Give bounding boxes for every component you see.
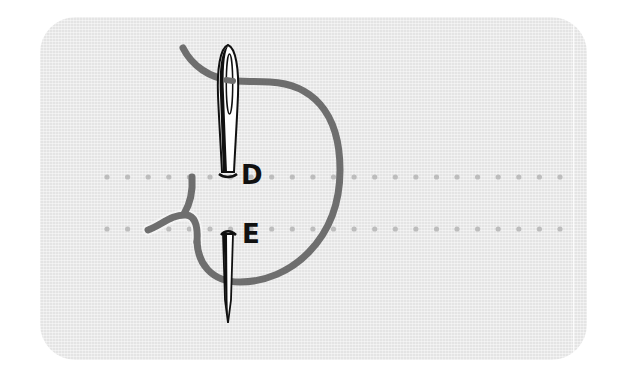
guide-dot <box>125 174 130 179</box>
guide-dot <box>516 174 521 179</box>
guide-dot <box>475 226 480 231</box>
guide-dot <box>454 226 459 231</box>
guide-dot <box>290 226 295 231</box>
guide-dot <box>207 174 212 179</box>
guide-dot <box>166 226 171 231</box>
guide-dot <box>352 226 357 231</box>
guide-dot <box>331 174 336 179</box>
guide-dot <box>516 226 521 231</box>
guide-dot <box>557 226 562 231</box>
stitch-illustration <box>0 0 618 383</box>
guide-dot <box>393 174 398 179</box>
guide-dot <box>372 226 377 231</box>
upper-needle-icon <box>218 45 238 177</box>
guide-dot <box>104 174 109 179</box>
guide-dot <box>269 174 274 179</box>
guide-dot <box>166 174 171 179</box>
guide-dot <box>496 226 501 231</box>
guide-dot <box>352 174 357 179</box>
guide-dot <box>310 174 315 179</box>
guide-dot <box>475 174 480 179</box>
guide-dot <box>434 226 439 231</box>
guide-dot <box>557 174 562 179</box>
guide-dot <box>310 226 315 231</box>
guide-dot <box>207 226 212 231</box>
guide-dot <box>290 174 295 179</box>
guide-dot <box>537 226 542 231</box>
guide-dot <box>413 226 418 231</box>
point-e-label: E <box>242 221 260 247</box>
guide-dot <box>269 226 274 231</box>
guide-dot <box>125 226 130 231</box>
guide-dot <box>496 174 501 179</box>
guide-dot <box>331 226 336 231</box>
guide-dot <box>372 174 377 179</box>
guide-dot <box>537 174 542 179</box>
guide-dot <box>454 174 459 179</box>
guide-dot <box>393 226 398 231</box>
guide-dot <box>146 174 151 179</box>
guide-dot <box>434 174 439 179</box>
point-d-label: D <box>241 162 263 188</box>
guide-dot <box>413 174 418 179</box>
guide-dot <box>104 226 109 231</box>
